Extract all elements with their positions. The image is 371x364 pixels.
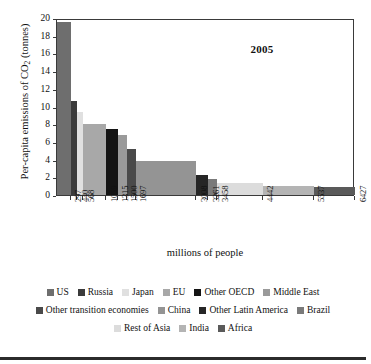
chart-title: 2005 <box>113 43 371 55</box>
legend-label: China <box>168 304 191 316</box>
y-tick-label: 0 <box>45 189 50 202</box>
y-tick: 2 <box>0 178 56 179</box>
legend-item-eu: EU <box>163 286 186 298</box>
x-tick-label: 5537 <box>316 186 326 202</box>
legend-label: Other Latin America <box>209 304 288 316</box>
y-tick: 6 <box>0 143 56 144</box>
plot-area: Per-capita emissions of CO2 (tonnes) 024… <box>0 0 366 248</box>
legend-label: Japan <box>132 286 154 298</box>
legend-item-africa: Africa <box>218 322 252 334</box>
y-tick-label: 8 <box>45 118 50 131</box>
y-tick-label: 20 <box>41 12 51 25</box>
legend-label: India <box>189 322 209 334</box>
legend-label: Brazil <box>307 304 330 316</box>
legend-item-other-transition-economies: Other transition economies <box>36 304 149 316</box>
legend-swatch <box>297 307 304 314</box>
legend-label: Other OECD <box>204 286 254 298</box>
legend-item-russia: Russia <box>78 286 113 298</box>
y-tick-label: 16 <box>41 47 51 60</box>
y-tick-label: 12 <box>41 83 51 96</box>
y-tick: 20 <box>0 19 56 20</box>
x-axis-title: millions of people <box>56 247 354 258</box>
legend-swatch <box>263 289 270 296</box>
legend-item-india: India <box>179 322 209 334</box>
legend: USRussiaJapanEUOther OECDMiddle EastOthe… <box>0 283 366 345</box>
y-tick-label: 6 <box>45 136 50 149</box>
legend-row: USRussiaJapanEUOther OECDMiddle East <box>0 283 366 301</box>
legend-item-other-latin-america: Other Latin America <box>199 304 288 316</box>
legend-swatch <box>218 325 225 332</box>
legend-row: Rest of AsiaIndiaAfrica <box>0 319 366 337</box>
y-tick: 0 <box>0 196 56 197</box>
y-axis-ticks: 02468101214161820 <box>0 19 56 196</box>
bar-eu <box>83 124 106 195</box>
legend-swatch <box>78 289 85 296</box>
y-tick-label: 18 <box>41 30 51 43</box>
legend-item-us: US <box>47 286 69 298</box>
x-tick-label: 1059 <box>109 186 119 202</box>
legend-label: Rest of Asia <box>124 322 170 334</box>
y-tick: 10 <box>0 108 56 109</box>
x-axis-tick-labels: 2974405681059131515001697300832613458444… <box>56 200 354 242</box>
y-tick: 8 <box>0 125 56 126</box>
y-tick: 18 <box>0 37 56 38</box>
y-tick-label: 10 <box>41 101 51 114</box>
legend-swatch <box>36 307 43 314</box>
legend-label: US <box>57 286 69 298</box>
legend-item-other-oecd: Other OECD <box>194 286 254 298</box>
x-tick-label: 568 <box>86 190 96 202</box>
legend-swatch <box>114 325 121 332</box>
legend-swatch <box>122 289 129 296</box>
legend-label: Africa <box>228 322 252 334</box>
legend-swatch <box>194 289 201 296</box>
y-tick-label: 2 <box>45 171 50 184</box>
y-tick-label: 4 <box>45 154 50 167</box>
legend-item-japan: Japan <box>122 286 154 298</box>
y-tick: 12 <box>0 90 56 91</box>
x-tick-label: 3458 <box>220 186 230 202</box>
legend-label: EU <box>173 286 186 298</box>
x-tick-mark <box>354 196 355 200</box>
legend-label: Other transition economies <box>46 304 149 316</box>
legend-swatch <box>47 289 54 296</box>
legend-swatch <box>199 307 206 314</box>
bar-us <box>57 22 71 195</box>
y-tick: 14 <box>0 72 56 73</box>
legend-swatch <box>163 289 170 296</box>
y-tick: 16 <box>0 54 56 55</box>
y-tick: 4 <box>0 161 56 162</box>
legend-swatch <box>179 325 186 332</box>
legend-item-rest-of-asia: Rest of Asia <box>114 322 170 334</box>
legend-label: Russia <box>88 286 113 298</box>
bottom-rule <box>0 357 366 360</box>
x-tick-label: 4442 <box>265 186 275 202</box>
axes-box: 2005 <box>56 19 354 196</box>
legend-swatch <box>158 307 165 314</box>
x-tick-label: 1697 <box>138 186 148 202</box>
x-tick-label: 3008 <box>199 186 209 202</box>
x-tick-label: 6427 <box>358 186 368 202</box>
legend-row: Other transition economiesChinaOther Lat… <box>0 301 366 319</box>
legend-item-middle-east: Middle East <box>263 286 319 298</box>
legend-label: Middle East <box>273 286 319 298</box>
legend-item-brazil: Brazil <box>297 304 330 316</box>
bar-russia <box>71 101 78 195</box>
legend-item-china: China <box>158 304 191 316</box>
y-tick-label: 14 <box>41 65 51 78</box>
